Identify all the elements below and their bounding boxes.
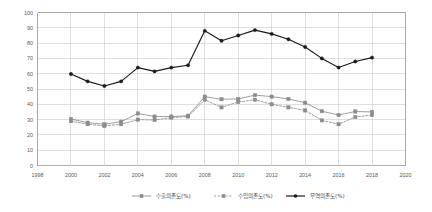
data-point (119, 80, 122, 83)
y-tick-label: 80 (27, 40, 33, 46)
data-point (320, 57, 323, 60)
data-point (103, 124, 106, 127)
y-tick-label: 60 (27, 71, 33, 77)
data-point (86, 122, 89, 125)
data-point (186, 115, 189, 118)
x-tick-label: 2018 (366, 172, 378, 178)
data-point (303, 45, 306, 48)
x-tick-label: 2004 (132, 172, 144, 178)
x-tick-label: 2008 (199, 172, 211, 178)
data-point (303, 109, 306, 112)
data-point (303, 101, 306, 104)
chart-legend: 수출의존도(%)수입의존도(%)무역의존도(%) (132, 192, 345, 200)
data-point (370, 56, 373, 59)
line-chart: 0102030405060708090100 19982000200220042… (0, 0, 432, 212)
data-point (220, 98, 223, 101)
legend-label: 무역의존도(%) (310, 192, 345, 200)
data-point (354, 60, 357, 63)
x-tick-label: 2002 (98, 172, 110, 178)
x-tick-label: 2012 (266, 172, 278, 178)
y-tick-label: 50 (27, 86, 33, 92)
y-tick-label: 40 (27, 101, 33, 107)
y-tick-label: 90 (27, 25, 33, 31)
data-point (170, 66, 173, 69)
y-tick-label: 20 (27, 132, 33, 138)
x-tick-label: 2006 (165, 172, 177, 178)
data-point (253, 28, 256, 31)
data-point (136, 112, 139, 115)
data-point (170, 116, 173, 119)
x-tick-label: 2014 (299, 172, 311, 178)
data-point (320, 109, 323, 112)
x-tick-label: 1998 (32, 172, 44, 178)
data-point (320, 119, 323, 122)
data-point (86, 80, 89, 83)
data-point (370, 113, 373, 116)
data-point (153, 70, 156, 73)
data-point (119, 122, 122, 125)
data-point (69, 119, 72, 122)
data-point (337, 122, 340, 125)
data-point (337, 113, 340, 116)
chart-container: 0102030405060708090100 19982000200220042… (0, 0, 432, 212)
y-tick-label: 70 (27, 55, 33, 61)
data-point (103, 84, 106, 87)
chart-background (0, 0, 432, 212)
x-tick-label: 2016 (333, 172, 345, 178)
data-point (186, 64, 189, 67)
x-tick-label: 2020 (400, 172, 412, 178)
y-tick-label: 10 (27, 147, 33, 153)
data-point (203, 29, 206, 32)
data-point (287, 38, 290, 41)
data-point (220, 106, 223, 109)
data-point (153, 118, 156, 121)
data-point (253, 93, 256, 96)
y-tick-label: 30 (27, 117, 33, 123)
y-tick-label: 100 (24, 10, 33, 16)
x-tick-label: 2010 (232, 172, 244, 178)
legend-label: 수출의존도(%) (156, 192, 191, 200)
data-point (136, 66, 139, 69)
x-tick-label: 2000 (65, 172, 77, 178)
legend-swatch-marker (294, 194, 298, 198)
data-point (220, 39, 223, 42)
legend-label: 수입의존도(%) (238, 192, 273, 200)
data-point (270, 103, 273, 106)
data-point (237, 34, 240, 37)
data-point (136, 118, 139, 121)
data-point (270, 32, 273, 35)
data-point (354, 110, 357, 113)
data-point (287, 97, 290, 100)
data-point (237, 100, 240, 103)
data-point (253, 98, 256, 101)
data-point (337, 66, 340, 69)
data-point (153, 115, 156, 118)
legend-swatch-marker (222, 194, 226, 198)
y-tick-label: 0 (30, 163, 33, 169)
data-point (203, 98, 206, 101)
data-point (69, 72, 72, 75)
data-point (354, 115, 357, 118)
legend-swatch-marker (140, 194, 144, 198)
data-point (287, 106, 290, 109)
data-point (270, 95, 273, 98)
